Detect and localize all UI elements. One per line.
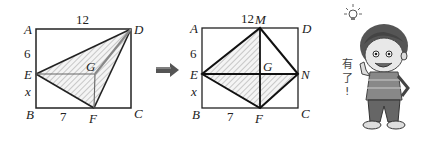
label-B: B bbox=[26, 107, 34, 122]
label-C: C bbox=[301, 106, 310, 121]
speech-char-1: 有 bbox=[342, 57, 353, 71]
right-arrow-icon bbox=[156, 63, 179, 77]
label-G: G bbox=[86, 59, 96, 74]
label-E: E bbox=[23, 67, 32, 82]
speech-char-2: 了 bbox=[342, 72, 353, 85]
label-N: N bbox=[300, 67, 311, 82]
cartoon-boy: 有 了 ! bbox=[342, 4, 408, 129]
figure-2: A 12 M D 6 E G N x B 7 F C bbox=[189, 11, 312, 126]
label-D: D bbox=[301, 21, 312, 36]
label-A: A bbox=[23, 22, 32, 37]
lightbulb-icon bbox=[344, 4, 362, 20]
label-F: F bbox=[254, 111, 264, 126]
label-F: F bbox=[88, 111, 98, 126]
measure-AE: 6 bbox=[190, 46, 197, 61]
label-M: M bbox=[254, 12, 267, 27]
measure-EB: x bbox=[24, 84, 31, 99]
measure-BF: 7 bbox=[227, 109, 234, 124]
speech-char-3: ! bbox=[345, 85, 349, 98]
label-C: C bbox=[134, 106, 143, 121]
measure-AE: 6 bbox=[24, 46, 31, 61]
figure-1: A 12 D 6 E G x B 7 F C bbox=[23, 12, 144, 126]
label-A: A bbox=[189, 21, 198, 36]
measure-EB: x bbox=[190, 84, 197, 99]
measure-AD: 12 bbox=[76, 12, 89, 27]
label-G: G bbox=[263, 59, 273, 74]
measure-BF: 7 bbox=[60, 109, 67, 124]
label-D: D bbox=[133, 22, 144, 37]
label-B: B bbox=[192, 107, 200, 122]
measure-AD: 12 bbox=[241, 11, 254, 26]
label-E: E bbox=[189, 67, 198, 82]
